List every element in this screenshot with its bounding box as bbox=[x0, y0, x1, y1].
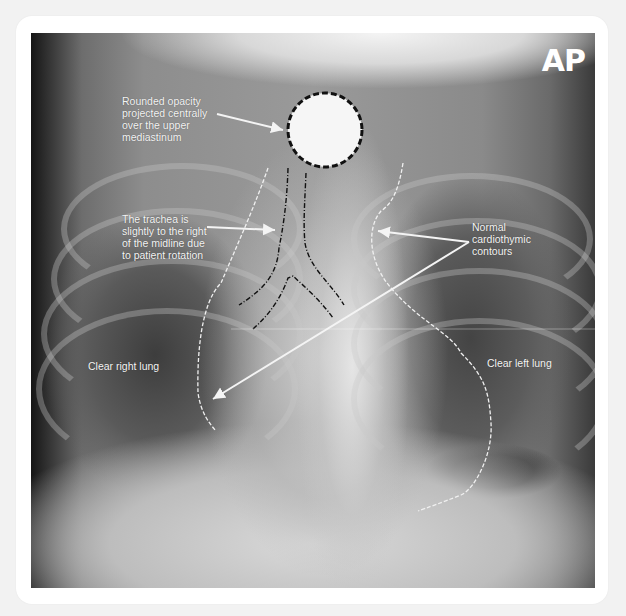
annotation-trachea: The trachea is slightly to the right of … bbox=[122, 213, 207, 261]
chest-xray-image: Rounded opacity projected centrally over… bbox=[31, 33, 595, 588]
right-heart-border bbox=[198, 168, 268, 431]
annotation-left-lung: Clear left lung bbox=[487, 357, 552, 369]
trachea-outline bbox=[239, 168, 344, 329]
arrow-to-trachea bbox=[207, 227, 275, 230]
rounded-opacity-marker bbox=[288, 93, 362, 167]
arrow-to-opacity bbox=[217, 114, 283, 130]
annotation-overlay bbox=[31, 33, 595, 588]
annotation-rounded-opacity: Rounded opacity projected centrally over… bbox=[122, 95, 207, 143]
annotation-right-lung: Clear right lung bbox=[88, 360, 159, 372]
arrow-to-left-border bbox=[378, 231, 469, 242]
annotation-cardiothymic: Normal cardiothymic contours bbox=[472, 221, 531, 257]
arrow-to-right-border bbox=[213, 242, 469, 399]
left-heart-border bbox=[372, 163, 491, 511]
view-label-ap: AP bbox=[542, 43, 585, 78]
